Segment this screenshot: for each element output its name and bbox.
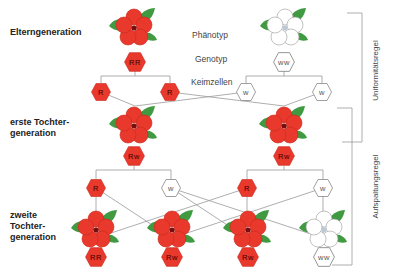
genotype-f2-3: Rw xyxy=(237,247,259,267)
genotype-parent-red: RR xyxy=(124,52,146,72)
gamete-parent-white-2: w xyxy=(312,83,332,101)
label-segregation-rule: Aufspaltungsregel xyxy=(371,147,380,227)
genotype-parent-white: ww xyxy=(273,52,295,72)
genotype-f2-4: ww xyxy=(313,247,335,267)
label-second-filial-generation: zweite Tochter- generation xyxy=(10,210,56,243)
label-genotype: Genotyp xyxy=(195,54,227,64)
flower-f2-1 xyxy=(69,208,121,252)
flower-f2-2 xyxy=(145,208,197,252)
flower-parent-white xyxy=(258,6,310,50)
label-uniformity-rule: Uniformitätsregel xyxy=(371,31,380,111)
label-gametes: Keimzellen xyxy=(191,77,233,87)
gamete-parent-red-1: R xyxy=(91,83,111,101)
flower-f2-3 xyxy=(221,208,273,252)
label-parent-generation: Elterngeneration xyxy=(10,27,82,38)
flower-parent-red xyxy=(107,6,159,50)
label-phenotype: Phänotyp xyxy=(192,30,228,40)
genotype-f1-left: Rw xyxy=(123,146,145,166)
genotype-f1-right: Rw xyxy=(273,146,295,166)
flower-f1-right xyxy=(257,104,309,148)
flower-f2-4 xyxy=(297,208,349,252)
gamete-f1-right-w: w xyxy=(313,179,333,197)
label-first-filial-generation: erste Tochter- generation xyxy=(10,117,69,139)
gamete-f1-left-R: R xyxy=(86,179,106,197)
genotype-f2-2: Rw xyxy=(161,247,183,267)
genotype-f2-1: RR xyxy=(85,247,107,267)
flower-f1-left xyxy=(107,104,159,148)
gamete-parent-red-2: R xyxy=(160,83,180,101)
gamete-f1-left-w: w xyxy=(161,179,181,197)
gamete-f1-right-R: R xyxy=(237,179,257,197)
gamete-parent-white-1: w xyxy=(236,83,256,101)
